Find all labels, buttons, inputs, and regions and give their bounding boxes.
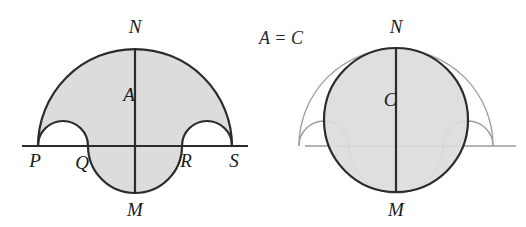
- label-M-left: M: [126, 199, 144, 220]
- geometry-figure: N M A P Q R S A = C N M C: [0, 0, 526, 227]
- label-region-C: C: [384, 89, 397, 110]
- left-diagram-group: N M A P Q R S: [22, 16, 248, 220]
- figure-container: N M A P Q R S A = C N M C: [0, 0, 526, 227]
- label-M-right: M: [387, 199, 405, 220]
- label-P: P: [28, 150, 41, 171]
- label-N-right: N: [389, 16, 404, 37]
- label-Q: Q: [75, 152, 89, 173]
- label-N-left: N: [128, 16, 143, 37]
- label-S: S: [229, 150, 239, 171]
- relation-label: A = C: [258, 28, 304, 48]
- right-diagram-group: N M C: [299, 16, 516, 220]
- label-R: R: [179, 150, 192, 171]
- label-region-A: A: [121, 84, 135, 105]
